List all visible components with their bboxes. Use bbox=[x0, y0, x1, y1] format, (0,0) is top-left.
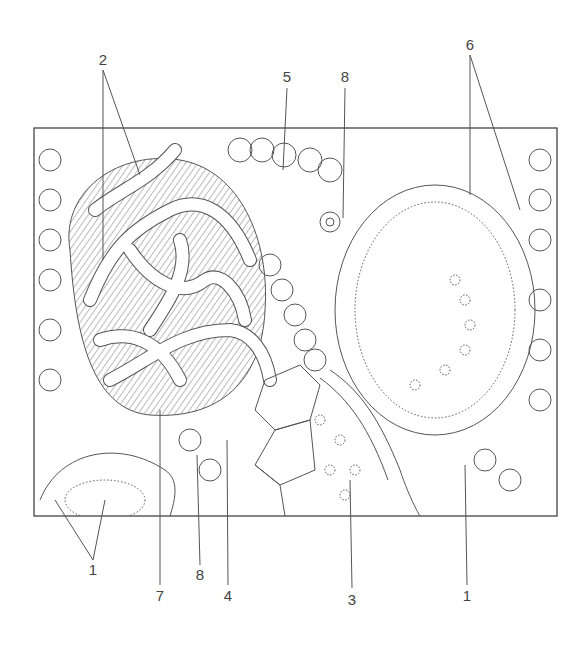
follicle bbox=[335, 185, 535, 435]
glomerulus bbox=[69, 150, 270, 415]
label-8-top: 8 bbox=[341, 69, 349, 84]
label-8-bottom: 8 bbox=[196, 567, 204, 582]
label-2: 2 bbox=[99, 52, 107, 67]
label-5: 5 bbox=[283, 69, 291, 84]
label-7: 7 bbox=[156, 588, 164, 603]
label-3: 3 bbox=[348, 592, 356, 607]
histology-figure bbox=[0, 0, 580, 655]
label-6: 6 bbox=[466, 37, 474, 52]
label-1-left: 1 bbox=[89, 562, 97, 577]
label-4: 4 bbox=[224, 588, 232, 603]
label-1-right: 1 bbox=[463, 588, 471, 603]
